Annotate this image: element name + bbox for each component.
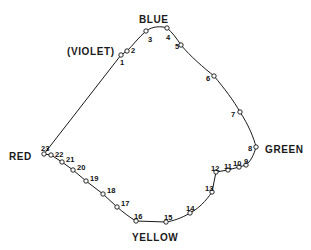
- point-number-label-13: 13: [205, 185, 213, 193]
- point-number-label-5: 5: [175, 43, 179, 51]
- data-point-marker-22[interactable]: [49, 153, 53, 157]
- point-number-label-16: 16: [134, 213, 142, 221]
- data-point-marker-20[interactable]: [71, 168, 75, 172]
- point-number-label-21: 21: [66, 156, 74, 164]
- point-number-label-14: 14: [186, 205, 194, 213]
- point-number-label-1: 1: [120, 59, 124, 67]
- data-point-marker-17[interactable]: [115, 205, 119, 209]
- data-point-marker-2[interactable]: [125, 49, 129, 53]
- point-number-label-15: 15: [164, 214, 172, 222]
- data-point-marker-7[interactable]: [238, 110, 242, 114]
- region-label-violet: (VIOLET): [67, 47, 115, 57]
- data-point-marker-5[interactable]: [179, 43, 183, 47]
- point-number-label-8: 8: [248, 145, 252, 153]
- point-number-label-7: 7: [231, 111, 235, 119]
- region-label-blue: BLUE: [139, 15, 169, 25]
- point-number-label-9: 9: [244, 158, 248, 166]
- purple-line-segment: [44, 55, 121, 154]
- region-label-red: RED: [9, 152, 32, 162]
- point-number-label-22: 22: [55, 151, 63, 159]
- data-point-marker-21[interactable]: [60, 160, 64, 164]
- point-number-label-23: 23: [41, 145, 49, 153]
- data-point-marker-19[interactable]: [84, 179, 88, 183]
- data-point-marker-8[interactable]: [254, 145, 258, 149]
- point-number-label-17: 17: [121, 200, 129, 208]
- point-number-label-19: 19: [90, 175, 98, 183]
- data-point-marker-18[interactable]: [101, 192, 105, 196]
- region-label-green: GREEN: [265, 145, 304, 155]
- data-point-marker-1[interactable]: [119, 53, 123, 57]
- point-number-label-4: 4: [166, 34, 170, 42]
- point-number-label-3: 3: [148, 36, 152, 44]
- chromaticity-plot-canvas: [0, 0, 311, 250]
- data-point-marker-6[interactable]: [212, 74, 216, 78]
- data-point-marker-4[interactable]: [165, 26, 169, 30]
- point-number-label-18: 18: [107, 187, 115, 195]
- point-number-label-11: 11: [224, 163, 232, 171]
- point-number-label-12: 12: [211, 165, 219, 173]
- point-number-label-2: 2: [131, 47, 135, 55]
- point-number-label-10: 10: [233, 160, 241, 168]
- data-point-marker-3[interactable]: [144, 29, 148, 33]
- chromaticity-diagram-figure: BLUE(VIOLET)GREENREDYELLOW 1234567891011…: [0, 0, 311, 250]
- point-number-label-6: 6: [206, 75, 210, 83]
- region-label-yellow: YELLOW: [132, 233, 178, 243]
- point-number-label-20: 20: [77, 164, 85, 172]
